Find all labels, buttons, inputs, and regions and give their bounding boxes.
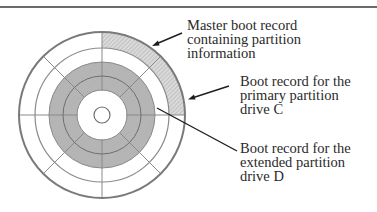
arrow-primary <box>188 86 229 100</box>
label-master-boot-record: Master boot record containing partition … <box>187 18 301 60</box>
arrow-mbr <box>152 33 182 46</box>
label-line: Boot record for the <box>240 74 351 88</box>
label-line: Boot record for the <box>240 141 351 155</box>
label-line: containing partition <box>187 32 301 46</box>
label-line: primary partition <box>240 88 351 102</box>
label-line: Master boot record <box>187 18 301 32</box>
label-primary-partition: Boot record for the primary partition dr… <box>240 74 351 116</box>
label-line: drive D <box>240 169 351 183</box>
pointer-extended <box>157 108 237 151</box>
label-line: information <box>187 46 301 60</box>
label-line: drive C <box>240 102 351 116</box>
label-line: extended partition <box>240 155 351 169</box>
label-extended-partition: Boot record for the extended partition d… <box>240 141 351 183</box>
